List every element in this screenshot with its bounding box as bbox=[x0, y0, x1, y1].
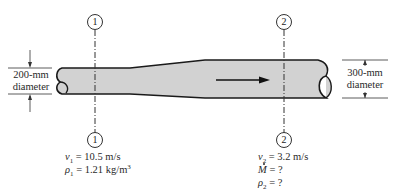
condition-mdot: M = ? bbox=[258, 164, 283, 176]
pipe-body bbox=[57, 60, 328, 98]
pipe-drawing bbox=[0, 0, 396, 195]
condition-rho1: ρ1 = 1.21 kg/m3 bbox=[65, 164, 131, 176]
pipe-flow-diagram: 1 2 1 2 200-mm diameter 300-mm diameter … bbox=[0, 0, 396, 195]
pipe-break-right bbox=[326, 76, 331, 98]
value-v2: = 3.2 m/s bbox=[266, 151, 308, 162]
diameter-label-1-value: 200-mm bbox=[6, 69, 56, 81]
condition-rho2: ρ2 = ? bbox=[258, 177, 282, 189]
section-marker-1-bottom: 1 bbox=[87, 132, 103, 148]
section-marker-2-bottom: 2 bbox=[276, 132, 292, 148]
section-marker-2-top: 2 bbox=[276, 14, 292, 30]
value-v1: = 10.5 m/s bbox=[73, 151, 120, 162]
section-marker-1-top: 1 bbox=[87, 14, 103, 30]
value-rho2: = ? bbox=[267, 177, 283, 188]
diameter-label-2-word: diameter bbox=[340, 79, 390, 91]
condition-v1: v1 = 10.5 m/s bbox=[65, 151, 121, 163]
value-mdot: = ? bbox=[267, 164, 283, 175]
value-rho1: = 1.21 kg/m bbox=[74, 164, 128, 175]
mdot-overdot bbox=[263, 163, 265, 165]
diameter-label-1: 200-mm diameter bbox=[6, 69, 56, 93]
superscript: 3 bbox=[127, 163, 131, 171]
diameter-label-2-value: 300-mm bbox=[340, 67, 390, 79]
diameter-label-1-word: diameter bbox=[6, 81, 56, 93]
condition-v2: v2 = 3.2 m/s bbox=[258, 151, 308, 163]
symbol-mdot: M bbox=[258, 164, 267, 175]
diameter-label-2: 300-mm diameter bbox=[340, 67, 390, 91]
